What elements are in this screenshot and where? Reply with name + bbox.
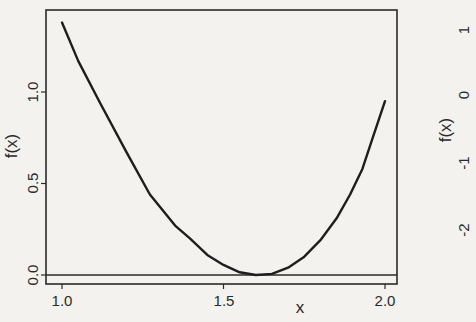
right-y-tick-label-3: -1 [455,156,472,169]
x-axis-title: x [296,298,305,317]
right-y-tick-label-4: -2 [455,223,472,236]
y-axis-title: f(x) [2,134,21,159]
x-tick-label-2: 1.5 [214,292,235,309]
right-y-tick-label-2: 0 [455,91,472,99]
y-tick-label-1: 0.0 [24,265,41,286]
x-tick-label-1: 1.0 [52,292,73,309]
function-curve [62,23,385,276]
right-panel-axis: 1 0 -1 -2 f(x) [436,26,472,237]
x-tick-label-3: 2.0 [375,292,396,309]
plot-frame [46,10,397,284]
right-y-axis-title: f(x) [436,118,455,143]
y-tick-label-3: 1.0 [24,82,41,103]
function-plot: 1.0 1.5 2.0 x 0.0 0.5 1.0 f(x) 1 0 -1 -2… [0,0,476,322]
y-tick-label-2: 0.5 [24,173,41,194]
right-y-tick-label-1: 1 [455,26,472,34]
